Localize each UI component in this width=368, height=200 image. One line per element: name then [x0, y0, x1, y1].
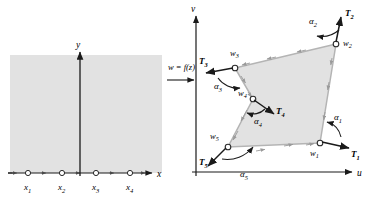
u-axis-label: u	[357, 168, 362, 178]
label-alpha2: α2	[309, 16, 318, 28]
label-T5: T5	[199, 157, 209, 169]
tangent-vector-T5	[208, 148, 226, 166]
label-x2: x2	[57, 182, 66, 194]
tangent-vector-T1	[322, 142, 349, 148]
label-T3: T3	[199, 56, 209, 68]
vertex-w2	[333, 41, 339, 47]
label-T2: T2	[345, 8, 355, 20]
label-x1: x1	[23, 182, 31, 194]
x-axis-label: x	[156, 169, 162, 179]
label-x4: x4	[125, 182, 134, 194]
mapping-formula: w = f(z)	[168, 62, 195, 72]
boundary-point-x2	[59, 170, 64, 175]
label-w5: w5	[210, 131, 219, 142]
vertex-w3	[232, 65, 238, 71]
boundary-point-x4	[127, 170, 132, 175]
label-w4: w4	[238, 88, 247, 99]
label-alpha5: α5	[240, 169, 248, 181]
label-alpha3: α3	[214, 81, 222, 93]
label-w1: w1	[310, 148, 319, 159]
tangent-vector-T2	[336, 17, 341, 42]
label-w2: w2	[343, 38, 352, 49]
right-panel-w-plane: v u	[191, 4, 362, 181]
boundary-point-x1	[25, 170, 30, 175]
mapping-annotation: w = f(z)	[167, 62, 195, 80]
left-panel-z-plane: x1 x2 x3 x4 x y	[8, 40, 162, 194]
label-w3: w3	[230, 48, 239, 59]
v-axis-label: v	[191, 4, 196, 14]
schwarz-christoffel-figure: x1 x2 x3 x4 x y w = f(z) v u	[0, 0, 368, 200]
label-alpha1: α1	[334, 112, 342, 124]
label-T1: T1	[351, 149, 360, 161]
angle-arc-alpha1	[327, 122, 341, 137]
y-axis-label: y	[75, 40, 81, 50]
tangent-vector-T3	[206, 68, 233, 73]
upper-half-plane-region	[10, 55, 162, 173]
label-x3: x3	[91, 182, 100, 194]
vertex-w1	[317, 140, 323, 146]
boundary-point-x3	[93, 170, 98, 175]
figure-canvas: x1 x2 x3 x4 x y w = f(z) v u	[0, 0, 368, 200]
angle-arc-alpha2	[317, 30, 339, 36]
